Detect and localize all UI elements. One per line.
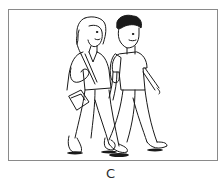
girl-figure xyxy=(67,17,129,157)
walking-teens-illustration xyxy=(9,10,217,160)
caption-label: C xyxy=(0,166,221,181)
illustration-frame xyxy=(8,9,218,161)
